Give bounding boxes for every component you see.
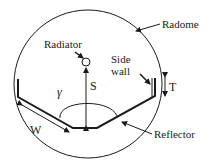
- radome-leader-arrow: [136, 24, 160, 31]
- radiator-leader-arrow: [75, 52, 83, 58]
- gamma-label: γ: [57, 85, 62, 99]
- antenna-diagram: Radome Radiator Side wall Reflector γ S …: [0, 0, 216, 168]
- spacing-label: S: [90, 79, 97, 93]
- side-wall-leader-arrow: [140, 74, 150, 84]
- gamma-angle-arc: [60, 103, 117, 118]
- radiator-icon: [82, 58, 90, 66]
- radome-label: Radome: [162, 18, 199, 30]
- side-wall-label-line2: wall: [111, 65, 130, 77]
- thickness-label: T: [169, 80, 177, 94]
- radiator-label: Radiator: [44, 38, 82, 50]
- reflector-label: Reflector: [154, 128, 195, 140]
- side-wall-label-line1: Side: [111, 53, 131, 65]
- width-label: W: [30, 123, 42, 137]
